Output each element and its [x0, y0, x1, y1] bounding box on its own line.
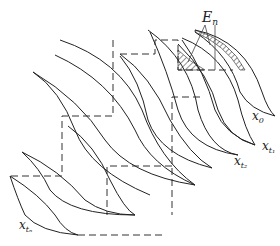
- label-xt1: xt₁: [262, 139, 275, 155]
- curve-family-x0: [195, 30, 275, 116]
- label-error-region: En: [201, 9, 218, 27]
- label-xt2: xt₂: [234, 154, 247, 170]
- curve-family-xt1: [178, 38, 255, 145]
- diagram-canvas: En x0 xt₁ xt₂ xtₙ: [0, 0, 280, 246]
- curve-family-middle: [33, 40, 195, 195]
- error-region-hatched: [178, 30, 245, 70]
- curve-family-lower: [22, 126, 135, 215]
